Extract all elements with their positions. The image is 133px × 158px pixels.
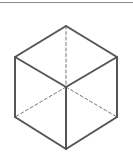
cube-edge (66, 117, 117, 149)
hidden-edge (15, 87, 66, 117)
cube-edge (66, 57, 117, 87)
cube-edge (66, 26, 117, 57)
cube-diagram (0, 0, 133, 158)
hidden-edge (66, 87, 117, 117)
cube-edge (15, 26, 66, 57)
cube-edge (15, 57, 66, 87)
cube-edge (15, 117, 66, 149)
